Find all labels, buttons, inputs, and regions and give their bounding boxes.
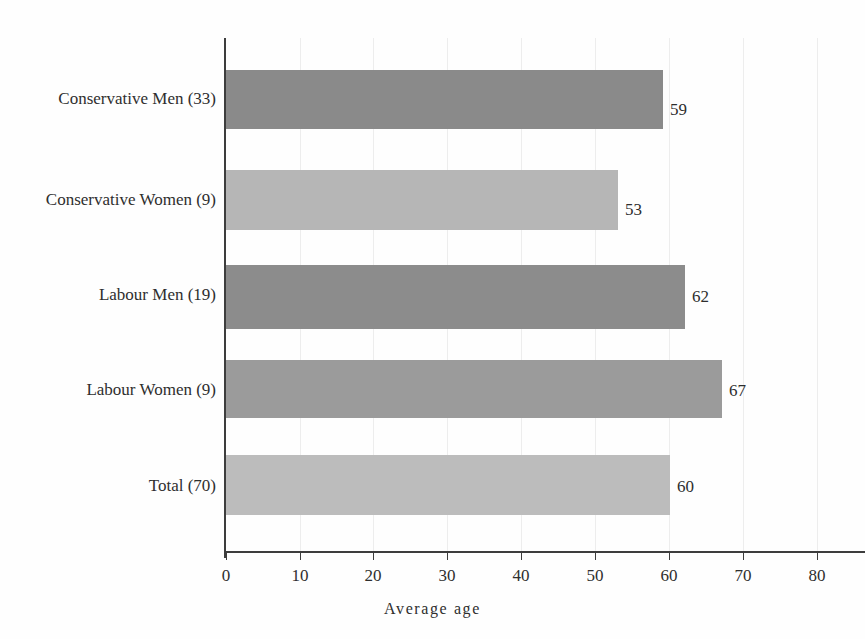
category-label-conservative-men: Conservative Men (33)	[58, 89, 216, 109]
y-axis-line	[224, 38, 226, 558]
x-tick-label-0: 0	[222, 566, 231, 586]
x-tick-label-30: 30	[439, 566, 456, 586]
bar-value-label: 67	[729, 381, 746, 401]
x-axis-line	[226, 551, 865, 553]
x-tick-20	[373, 552, 374, 560]
bar-labour-women[interactable]	[226, 360, 722, 418]
bar-conservative-women[interactable]	[226, 170, 618, 230]
x-tick-40	[521, 552, 522, 560]
x-tick-60	[669, 552, 670, 560]
x-tick-label-60: 60	[661, 566, 678, 586]
category-label-conservative-women: Conservative Women (9)	[46, 190, 216, 210]
x-axis-title: Average age	[0, 600, 865, 618]
bar-value-label: 53	[625, 200, 642, 220]
x-tick-10	[300, 552, 301, 560]
bars-layer	[226, 38, 865, 552]
x-tick-label-10: 10	[292, 566, 309, 586]
category-label-labour-men: Labour Men (19)	[99, 285, 216, 305]
bar-value-label: 59	[670, 100, 687, 120]
x-tick-0	[226, 552, 227, 560]
bar-chart: 59 53 62 67 60 Conservative Men (33) Con…	[0, 0, 865, 639]
x-tick-50	[595, 552, 596, 560]
x-tick-80	[817, 552, 818, 560]
category-label-labour-women: Labour Women (9)	[86, 380, 216, 400]
x-tick-label-70: 70	[735, 566, 752, 586]
bar-total[interactable]	[226, 455, 670, 515]
x-tick-label-80: 80	[809, 566, 826, 586]
category-label-total: Total (70)	[149, 476, 216, 496]
x-tick-70	[743, 552, 744, 560]
x-tick-30	[447, 552, 448, 560]
x-tick-label-40: 40	[513, 566, 530, 586]
bar-value-label: 60	[677, 477, 694, 497]
bar-value-label: 62	[692, 287, 709, 307]
bar-labour-men[interactable]	[226, 265, 685, 329]
x-tick-label-50: 50	[587, 566, 604, 586]
bar-conservative-men[interactable]	[226, 70, 663, 129]
x-tick-label-20: 20	[365, 566, 382, 586]
